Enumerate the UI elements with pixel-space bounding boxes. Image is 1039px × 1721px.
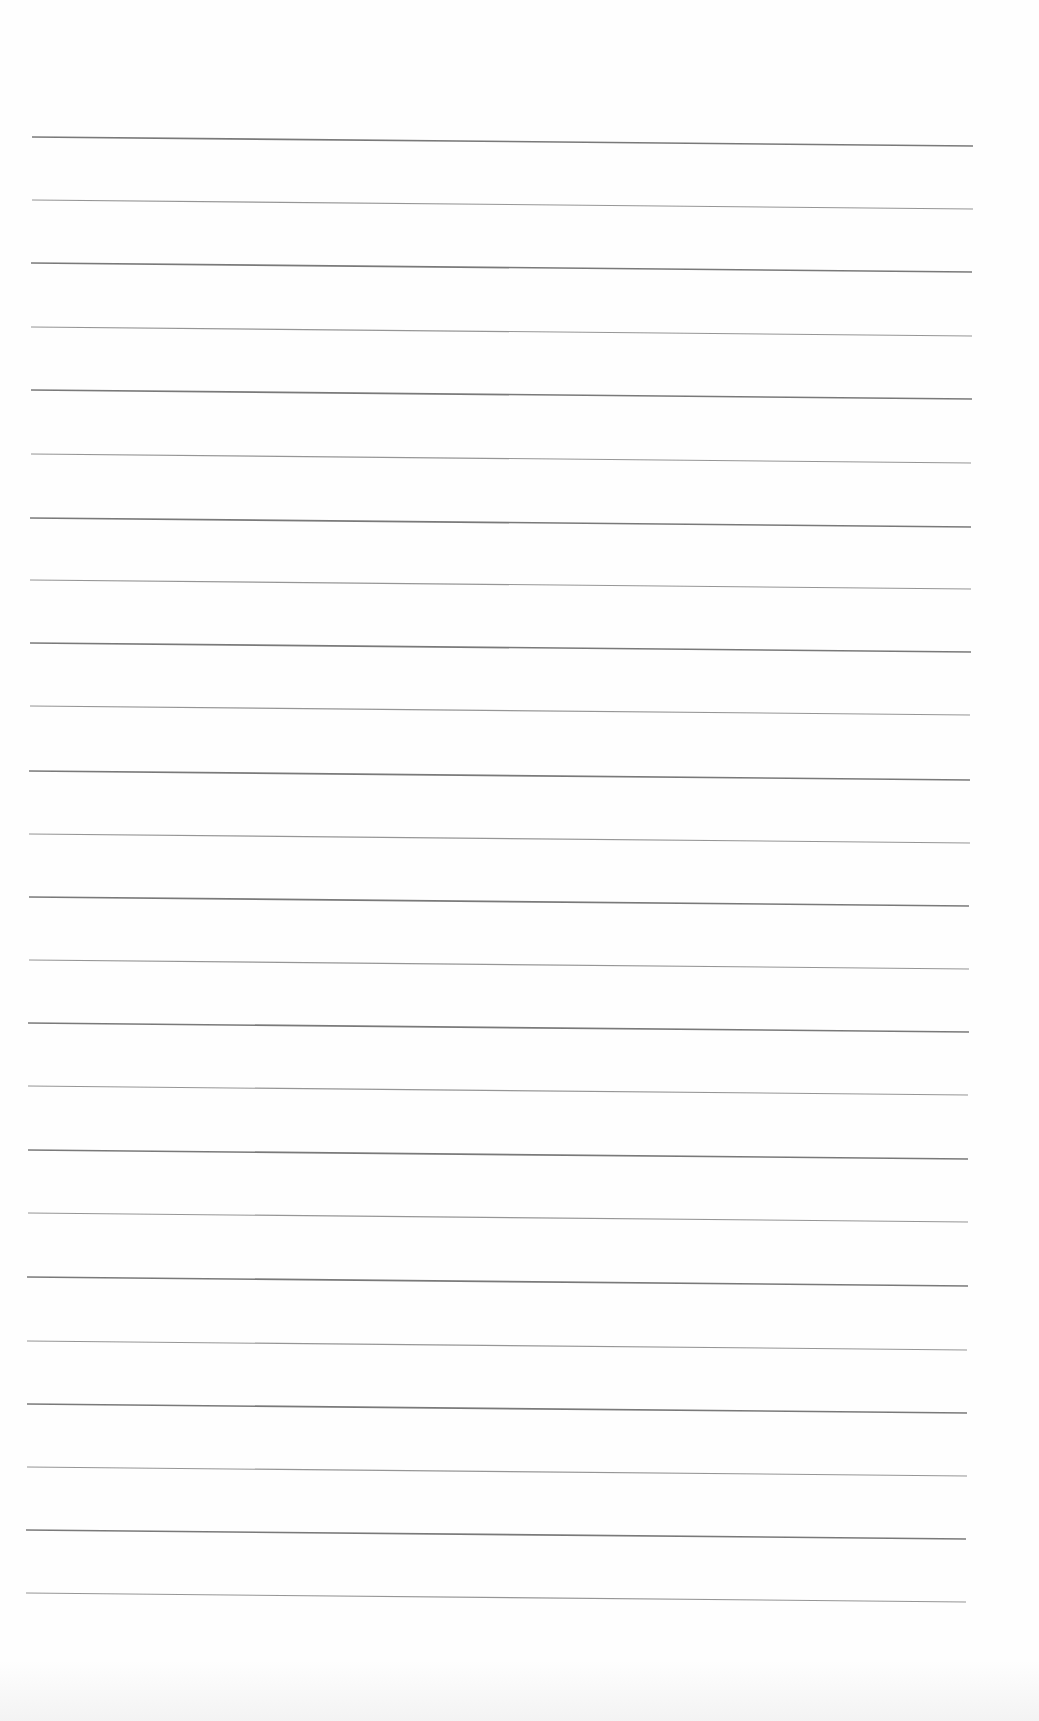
ruled-line bbox=[32, 137, 973, 146]
ruled-line bbox=[27, 1341, 967, 1350]
ruled-line bbox=[28, 1213, 968, 1222]
ruled-line bbox=[26, 1593, 966, 1602]
ruled-line bbox=[28, 1086, 968, 1095]
ruled-paper-page bbox=[0, 0, 1039, 1721]
ruled-line bbox=[30, 706, 970, 715]
ruled-line bbox=[28, 1150, 968, 1159]
ruled-line bbox=[31, 390, 972, 399]
ruled-lines bbox=[0, 0, 1039, 1721]
ruled-line bbox=[30, 518, 971, 527]
ruled-line bbox=[29, 897, 969, 906]
bottom-shadow bbox=[0, 1661, 1039, 1721]
ruled-line bbox=[31, 454, 971, 463]
ruled-line bbox=[29, 771, 970, 780]
ruled-line bbox=[31, 327, 972, 336]
ruled-line bbox=[32, 200, 973, 209]
ruled-line bbox=[27, 1467, 967, 1476]
ruled-line bbox=[29, 960, 969, 969]
ruled-line bbox=[30, 643, 971, 652]
ruled-line bbox=[27, 1277, 968, 1286]
ruled-line bbox=[31, 263, 972, 272]
ruled-line bbox=[29, 834, 970, 843]
ruled-line bbox=[30, 580, 971, 589]
ruled-line bbox=[26, 1530, 966, 1539]
ruled-line bbox=[27, 1404, 967, 1413]
ruled-line bbox=[28, 1023, 969, 1032]
